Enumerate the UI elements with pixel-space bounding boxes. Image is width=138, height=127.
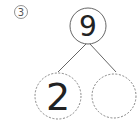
whole-circle: 9 [70, 8, 106, 44]
part-circle-right[interactable] [92, 74, 136, 118]
connector-right [90, 44, 116, 72]
whole-value: 9 [79, 10, 97, 43]
problem-number-badge: 3 [15, 6, 28, 19]
part-circle-left[interactable]: 2 [35, 73, 81, 119]
connector-left [58, 44, 86, 72]
part-value-left: 2 [46, 75, 70, 119]
number-bond-diagram: 3 9 2 [0, 0, 138, 127]
problem-number: 3 [18, 7, 24, 18]
